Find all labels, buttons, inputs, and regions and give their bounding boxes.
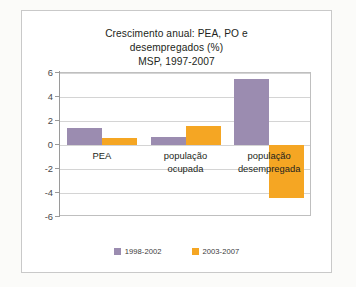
plot-area [60, 72, 311, 216]
chart-title: Crescimento anual: PEA, PO e desempregad… [22, 27, 331, 70]
y-axis-tick-label: 2 [22, 115, 53, 126]
y-axis-tick-mark [55, 72, 59, 73]
category-label-line: desempregada [214, 163, 324, 176]
category-label: populaçãodesempregada [214, 150, 324, 175]
category-label-line: população [214, 150, 324, 163]
chart-title-line-3: MSP, 1997-2007 [22, 55, 331, 69]
chart-card: Crescimento anual: PEA, PO e desempregad… [21, 10, 332, 273]
chart-figure: Crescimento anual: PEA, PO e desempregad… [0, 0, 356, 287]
y-axis-tick-label: 0 [22, 139, 53, 150]
y-axis-tick-label: -4 [22, 187, 53, 198]
y-axis-tick-mark [55, 216, 59, 217]
y-axis-tick-label: -2 [22, 163, 53, 174]
y-axis-tick-mark [55, 168, 59, 169]
legend-swatch-icon [114, 248, 121, 255]
y-axis-tick-mark [55, 96, 59, 97]
gridline [60, 97, 310, 98]
bar [151, 137, 186, 145]
bar [67, 128, 102, 145]
legend-label: 2003-2007 [203, 247, 240, 256]
y-axis-tick-label: 6 [22, 67, 53, 78]
chart-title-line-1: Crescimento anual: PEA, PO e [22, 27, 331, 41]
y-axis-tick-label: 4 [22, 91, 53, 102]
gridline [60, 73, 310, 74]
legend-swatch-icon [192, 248, 199, 255]
bar [186, 126, 221, 145]
y-axis-tick-mark [55, 120, 59, 121]
legend-item[interactable]: 2003-2007 [192, 247, 240, 256]
y-axis-tick-mark [55, 144, 59, 145]
legend-item[interactable]: 1998-2002 [114, 247, 162, 256]
bar [102, 138, 137, 145]
y-axis-tick-mark [55, 192, 59, 193]
chart-title-line-2: desempregados (%) [22, 41, 331, 55]
y-axis-tick-label: -6 [22, 211, 53, 222]
bar [234, 79, 269, 145]
gridline [60, 121, 310, 122]
legend-label: 1998-2002 [125, 247, 162, 256]
chart-legend: 1998-20022003-2007 [22, 247, 331, 256]
